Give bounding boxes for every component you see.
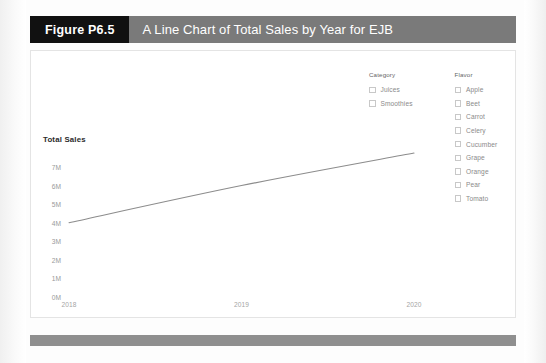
legend-item-label: Beet [466, 100, 480, 107]
legend-item-celery[interactable]: Celery [455, 124, 498, 138]
legend-item-label: Juices [381, 86, 400, 93]
legend-item-apple[interactable]: Apple [455, 83, 498, 97]
checkbox-icon[interactable] [455, 141, 462, 148]
y-axis-title: Total Sales [43, 135, 86, 144]
legend-item-smoothies[interactable]: Smoothies [369, 97, 413, 111]
legend-item-label: Carrot [466, 113, 485, 120]
legend-item-pear[interactable]: Pear [455, 178, 498, 192]
legend-item-beet[interactable]: Beet [455, 97, 498, 111]
checkbox-icon[interactable] [455, 182, 462, 189]
y-axis-tick-label: 0M [39, 294, 61, 301]
page-left-shadow [0, 0, 26, 363]
checkbox-icon[interactable] [455, 114, 462, 121]
y-axis-tick-label: 1M [39, 275, 61, 282]
x-axis-tick-label: 2018 [61, 301, 76, 308]
legend-item-label: Smoothies [381, 100, 413, 107]
checkbox-icon[interactable] [455, 127, 462, 134]
y-axis-tick-label: 3M [39, 238, 61, 245]
y-axis-tick-label: 7M [39, 164, 61, 171]
scanned-page: Figure P6.5 A Line Chart of Total Sales … [0, 0, 546, 363]
legend-item-tomato[interactable]: Tomato [455, 192, 498, 206]
checkbox-icon[interactable] [455, 87, 462, 94]
y-axis-tick-label: 5M [39, 201, 61, 208]
total-sales-line [69, 153, 414, 223]
y-axis-tick-label: 6M [39, 182, 61, 189]
legend-item-grape[interactable]: Grape [455, 151, 498, 165]
legend-item-label: Pear [466, 181, 480, 188]
page-footer-rule [30, 335, 516, 346]
checkbox-icon[interactable] [369, 100, 376, 107]
checkbox-icon[interactable] [455, 195, 462, 202]
legend-group-flavor: FlavorAppleBeetCarrotCeleryCucumberGrape… [455, 71, 498, 205]
legend-group-heading: Flavor [455, 71, 498, 78]
checkbox-icon[interactable] [455, 155, 462, 162]
page-right-shadow [524, 0, 546, 363]
legend-item-label: Tomato [466, 195, 488, 202]
x-axis-tick-label: 2019 [234, 301, 249, 308]
y-axis-tick-label: 4M [39, 219, 61, 226]
figure-header: Figure P6.5 A Line Chart of Total Sales … [30, 16, 516, 43]
y-axis-tick-label: 2M [39, 256, 61, 263]
line-series-svg [39, 159, 439, 309]
legend-item-label: Grape [466, 154, 485, 161]
legend-item-label: Apple [466, 86, 483, 93]
checkbox-icon[interactable] [455, 168, 462, 175]
checkbox-icon[interactable] [455, 100, 462, 107]
chart-panel: CategoryJuicesSmoothiesFlavorAppleBeetCa… [30, 50, 516, 318]
legend-item-label: Orange [466, 168, 489, 175]
legend-item-carrot[interactable]: Carrot [455, 110, 498, 124]
legend-item-cucumber[interactable]: Cucumber [455, 137, 498, 151]
legend-group-heading: Category [369, 71, 413, 78]
figure-title: A Line Chart of Total Sales by Year for … [129, 16, 516, 43]
figure-number-badge: Figure P6.5 [30, 16, 129, 43]
x-axis-tick-label: 2020 [406, 301, 421, 308]
legend-item-juices[interactable]: Juices [369, 83, 413, 97]
plot-area: 7M6M5M4M3M2M1M0M201820192020 [39, 159, 439, 309]
checkbox-icon[interactable] [369, 87, 376, 94]
legend-item-orange[interactable]: Orange [455, 165, 498, 179]
legend-item-label: Cucumber [466, 141, 497, 148]
legend-item-label: Celery [466, 127, 486, 134]
